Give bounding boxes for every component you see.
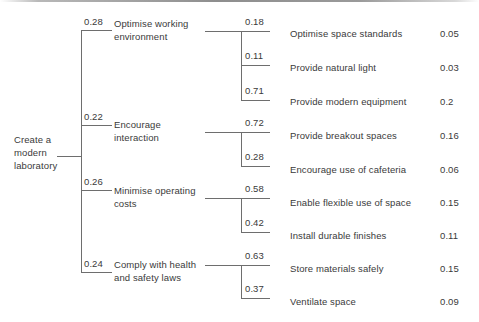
level2-weight-9: 0.37 [245,283,264,295]
leaf-value-7: 0.11 [440,230,458,242]
leaf-label-2: Provide natural light [290,62,376,74]
level1-node-3: Minimise operating costs [114,184,214,210]
level1-weight-3: 0.26 [84,176,103,188]
leaf-value-4: 0.16 [440,130,459,142]
leaf-value-5: 0.06 [440,164,459,176]
leaf-label-1: Optimise space standards [290,28,402,40]
leaf-value-8: 0.15 [440,263,459,275]
leaf-value-2: 0.03 [440,62,459,74]
leaf-label-4: Provide breakout spaces [290,130,397,142]
leaf-label-7: Install durable finishes [290,230,386,242]
level2-weight-8: 0.63 [245,250,264,262]
leaf-label-5: Encourage use of cafeteria [290,164,406,176]
root-node-label: Create a modern laboratory [14,133,84,172]
level2-weight-4: 0.72 [245,117,264,129]
level2-weight-5: 0.28 [245,151,264,163]
hierarchy-diagram: Create a modern laboratory 0.28 0.22 0.2… [0,0,479,322]
level2-weight-3: 0.71 [245,85,264,97]
level2-weight-1: 0.18 [245,16,264,28]
level1-node-1: Optimise working environment [114,17,209,43]
leaf-value-1: 0.05 [440,28,459,40]
level1-weight-4: 0.24 [84,258,103,270]
level1-weight-2: 0.22 [84,111,103,123]
leaf-label-9: Ventilate space [290,296,356,308]
leaf-label-6: Enable flexible use of space [290,197,411,209]
leaf-value-9: 0.09 [440,296,459,308]
level2-weight-6: 0.58 [245,183,264,195]
leaf-label-3: Provide modern equipment [290,96,406,108]
leaf-value-6: 0.15 [440,197,459,209]
level1-node-2: Encourage interaction [114,118,209,144]
level1-node-4: Comply with health and safety laws [114,258,214,284]
level2-weight-2: 0.11 [245,50,263,62]
leaf-label-8: Store materials safely [290,263,384,275]
level1-weight-1: 0.28 [84,16,103,28]
level2-weight-7: 0.42 [245,217,264,229]
leaf-value-3: 0.2 [440,96,454,108]
